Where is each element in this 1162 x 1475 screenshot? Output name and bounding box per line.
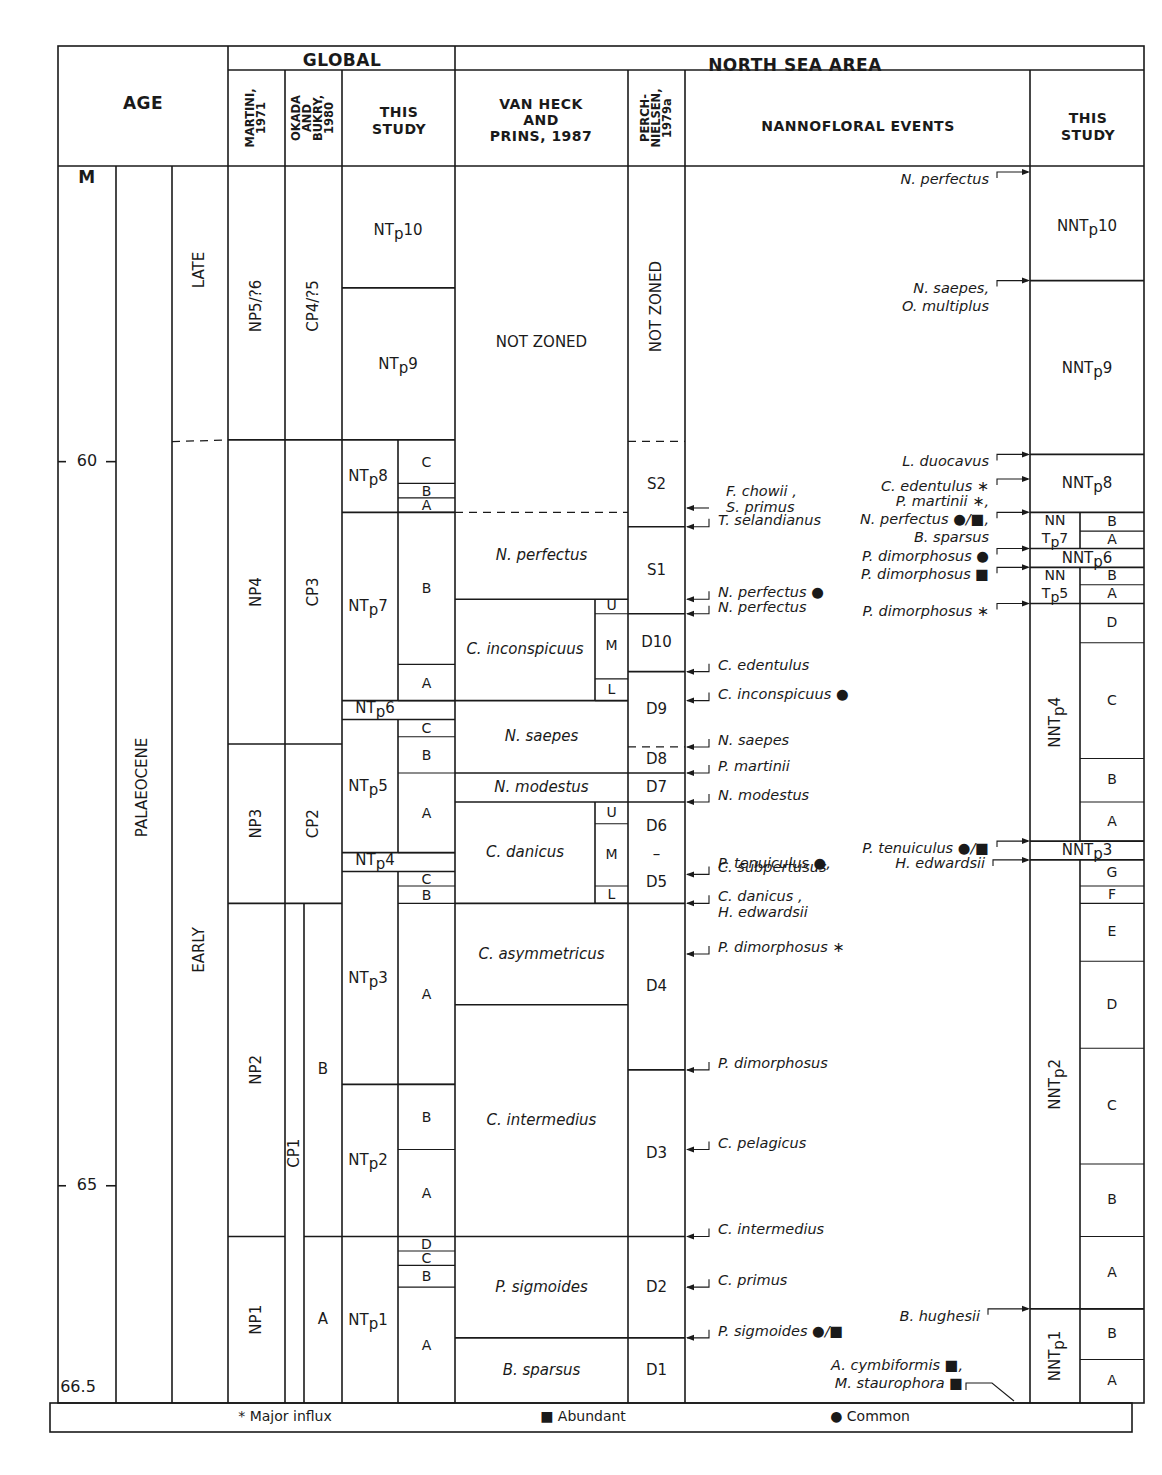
ntp-zone-label: NTp7: [348, 597, 387, 619]
legend-item-common: ● Common: [830, 1408, 910, 1424]
nntp-subzone-label: A: [1107, 1372, 1117, 1388]
header-north-sea-area: NORTH SEA AREA: [708, 55, 882, 75]
ntp-subzone-label: A: [422, 805, 432, 821]
event-label-left: N. perfectus: [718, 599, 807, 615]
martini-zone-label: NP3: [247, 809, 265, 839]
nannofloral-events: F. chowii ,S. primusT. selandianusN. per…: [686, 169, 1030, 1401]
nntp-subzone-label: A: [1107, 585, 1117, 601]
event-arrowhead: [686, 1067, 694, 1073]
event-arrowhead: [686, 770, 694, 776]
perch-nielsen-zone-label: S1: [647, 561, 666, 579]
event-arrow: [966, 1383, 1014, 1401]
ntp-zone-label: NTp5: [348, 777, 387, 799]
event-label-left: P. martinii: [718, 758, 790, 774]
nntp-subzone-label: D: [1107, 614, 1118, 630]
event-arrowhead: [686, 596, 694, 602]
ntp-zone-label: NTp8: [348, 467, 387, 489]
event-label-right: C. edentulus ∗: [881, 478, 989, 494]
header-van-heck-prins-1987: VAN HECK: [499, 96, 583, 112]
event-label-right: O. multiplus: [902, 298, 990, 314]
ntp-subzone-label: B: [422, 1109, 432, 1125]
column-headers: AGEGLOBALNORTH SEA AREAMARTINI,1971OKADA…: [58, 46, 1144, 1403]
nntp-zone-label: NNTp9: [1062, 358, 1113, 380]
van-heck-subzone-label: L: [608, 681, 616, 697]
header-nannofloral-events: NANNOFLORAL EVENTS: [761, 118, 955, 134]
nntp-zone-label: NN: [1045, 567, 1066, 583]
event-label-left: P. dimorphosus: [718, 1055, 828, 1071]
legend-item-abundant: ■ Abundant: [540, 1408, 626, 1424]
van-heck-subzone-label: U: [606, 804, 616, 820]
nntp-subzone-label: B: [1107, 771, 1117, 787]
event-label-left: P. sigmoides ●/■: [718, 1323, 843, 1339]
martini-zone-label: NP1: [247, 1305, 265, 1335]
ntp-subzone-label: A: [422, 1185, 432, 1201]
age-tick-label: 60: [77, 451, 97, 470]
perch-nielsen-zone-label: D9: [646, 700, 667, 718]
van-heck-subzone-label: U: [606, 597, 616, 613]
perch-nielsen-zone-label: S2: [647, 475, 666, 493]
age-tick-label: 65: [77, 1175, 97, 1194]
perch-nielsen-zone-label: D10: [641, 633, 672, 651]
nntp-subzone-label: G: [1107, 864, 1118, 880]
ntp-zone-label: NTp4: [355, 851, 394, 873]
event-label-right: P. tenuiculus ●/■: [862, 840, 989, 856]
nntp-zone-label: Tp7: [1041, 530, 1068, 550]
event-arrowhead: [686, 951, 694, 957]
event-label-left: H. edwardsii: [718, 904, 808, 920]
van-heck-subzone-label: L: [608, 886, 616, 902]
event-label-right: P. dimorphosus ■: [861, 566, 989, 582]
event-label-left: T. selandianus: [718, 512, 821, 528]
header-this-study-north-sea: STUDY: [1061, 127, 1116, 143]
event-label-left: N. modestus: [718, 787, 810, 803]
event-arrowhead: [1022, 857, 1030, 863]
header-van-heck-prins-1987: AND: [523, 112, 559, 128]
event-label-left: C. danicus ,: [718, 888, 803, 904]
header-van-heck-prins-1987: PRINS, 1987: [490, 128, 593, 144]
biostratigraphy-chart: AGEGLOBALNORTH SEA AREAMARTINI,1971OKADA…: [0, 0, 1162, 1475]
event-arrowhead: [686, 669, 694, 675]
nntp-subzone-label: C: [1107, 692, 1117, 708]
okada-zone-label: CP4/?5: [304, 280, 322, 332]
event-arrowhead: [686, 744, 694, 750]
nntp-zone-label: NNTp2: [1046, 1059, 1068, 1110]
van-heck-zone-label: B. sparsus: [503, 1361, 581, 1379]
ntp-zone-label: NTp9: [378, 354, 417, 376]
van-heck-subzone-label: M: [605, 637, 617, 653]
header-age: AGE: [123, 93, 163, 113]
nntp-zone-label: NNTp8: [1062, 474, 1113, 496]
event-arrowhead: [1022, 476, 1030, 482]
event-label-right: N. saepes,: [913, 280, 989, 296]
age-bottom-label: 66.5: [60, 1377, 96, 1396]
event-label-left: C. intermedius: [718, 1221, 825, 1237]
event-arrowhead: [686, 524, 694, 530]
event-arrowhead: [686, 799, 694, 805]
event-label-right: B. hughesii: [900, 1308, 980, 1324]
van-heck-subzone-label: M: [605, 846, 617, 862]
ntp-subzone-label: B: [422, 580, 432, 596]
perch-nielsen-zone-label: D5: [646, 873, 667, 891]
okada-zone-label: CP2: [304, 809, 322, 838]
event-arrowhead: [686, 900, 694, 906]
epoch-label-palaeocene: PALAEOCENE: [133, 738, 151, 837]
header-this-study-global: THIS: [380, 104, 419, 120]
martini-zone-label: NP5/?6: [247, 280, 265, 332]
event-arrowhead: [686, 1147, 694, 1153]
event-label-right: N. perfectus ●/■,: [860, 511, 989, 527]
ntp-zone-label: NTp3: [348, 968, 387, 990]
nntp-subzone-label: B: [1107, 567, 1117, 583]
chart-frame: [50, 46, 1144, 1432]
event-label-left: N. saepes: [718, 732, 790, 748]
nntp-subzone-label: D: [1107, 996, 1118, 1012]
nntp-subzone-label: B: [1107, 1191, 1117, 1207]
perch-nielsen-zone-label: –: [653, 845, 661, 863]
perch-nielsen-zone-label: D4: [646, 977, 667, 995]
event-label-right: M. staurophora ■: [835, 1375, 963, 1391]
nntp-zone-label: NNTp4: [1046, 697, 1068, 748]
ntp-subzone-label: A: [422, 497, 432, 513]
event-arrowhead: [686, 611, 694, 617]
legend: * Major influx■ Abundant● Common: [238, 1408, 910, 1424]
event-label-right: A. cymbiformis ■,: [830, 1357, 963, 1373]
nntp-zone-label: Tp5: [1041, 585, 1068, 605]
nntp-subzone-label: A: [1107, 813, 1117, 829]
header-martini-1971: 1971: [254, 102, 268, 134]
